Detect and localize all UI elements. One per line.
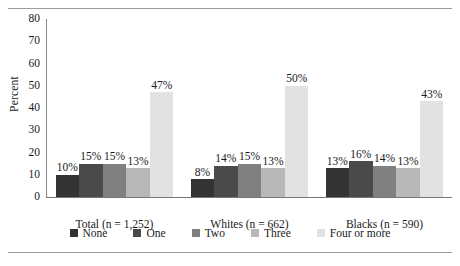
top-divider-rule (8, 8, 452, 9)
bar-value-label: 13% (263, 156, 284, 168)
bar-value-label: 47% (151, 80, 172, 92)
legend-swatch-icon (192, 229, 200, 237)
bar-slot: 50% (285, 19, 309, 197)
bar-slot: 14% (373, 19, 397, 197)
bar-group-bars: 13%16%14%13%43% (326, 19, 444, 197)
chart-legend: NoneOneTwoThreeFour or more (0, 227, 460, 239)
y-axis-tick-label: 40 (16, 102, 40, 114)
bar[interactable]: 15% (79, 164, 103, 197)
bar-value-label: 43% (421, 89, 442, 101)
legend-swatch-icon (70, 229, 78, 237)
legend-item[interactable]: One (133, 227, 165, 239)
bar-group: 13%16%14%13%43% (317, 19, 452, 197)
legend-swatch-icon (133, 229, 141, 237)
y-axis-tick-label: 80 (16, 13, 40, 25)
bar-value-label: 13% (398, 156, 419, 168)
y-axis-tick-label: 30 (16, 124, 40, 136)
bar-value-label: 8% (195, 167, 210, 179)
bar-value-label: 14% (215, 153, 236, 165)
bar-group: 8%14%15%13%50% (182, 19, 317, 197)
legend-item-label: Three (264, 227, 291, 239)
bar-value-label: 14% (374, 153, 395, 165)
bar-slot: 10% (56, 19, 80, 197)
legend-swatch-icon (317, 229, 325, 237)
bar-slot: 47% (150, 19, 174, 197)
legend-item[interactable]: Four or more (317, 227, 391, 239)
bar-group-bars: 8%14%15%13%50% (191, 19, 309, 197)
bar-slot: 15% (103, 19, 127, 197)
bar-value-label: 13% (128, 156, 149, 168)
bar[interactable]: 47% (150, 92, 174, 197)
bar[interactable]: 8% (191, 179, 215, 197)
legend-item[interactable]: Two (192, 227, 225, 239)
y-axis-tick-label: 20 (16, 147, 40, 159)
bar-slot: 8% (191, 19, 215, 197)
legend-item[interactable]: Three (251, 227, 291, 239)
bar-slot: 15% (238, 19, 262, 197)
bar[interactable]: 50% (285, 86, 309, 197)
bar-value-label: 13% (327, 156, 348, 168)
bar[interactable]: 14% (373, 166, 397, 197)
bar[interactable]: 14% (214, 166, 238, 197)
bar[interactable]: 15% (238, 164, 262, 197)
bar[interactable]: 16% (349, 161, 373, 197)
legend-item-label: One (146, 227, 165, 239)
plot-area: Percent 80706050403020100 10%15%15%13%47… (0, 14, 460, 204)
y-axis-tick-label: 60 (16, 58, 40, 70)
legend-item[interactable]: None (70, 227, 108, 239)
y-axis-tick-label: 10 (16, 169, 40, 181)
bar-slot: 43% (420, 19, 444, 197)
bar-slot: 16% (349, 19, 373, 197)
y-axis-tick-label: 50 (16, 80, 40, 92)
bar-value-label: 15% (239, 151, 260, 163)
bar[interactable]: 43% (420, 101, 444, 197)
bar-slot: 14% (214, 19, 238, 197)
legend-item-label: None (83, 227, 108, 239)
y-axis-tick-label: 0 (16, 191, 40, 203)
chart-figure: Percent 80706050403020100 10%15%15%13%47… (0, 0, 460, 266)
bar-value-label: 50% (286, 73, 307, 85)
bar-value-label: 10% (57, 162, 78, 174)
bar-group-bars: 10%15%15%13%47% (56, 19, 174, 197)
legend-item-label: Four or more (330, 227, 391, 239)
bar[interactable]: 15% (103, 164, 127, 197)
bar-value-label: 15% (80, 151, 101, 163)
bar-value-label: 16% (350, 149, 371, 161)
bar-slot: 13% (261, 19, 285, 197)
bar[interactable]: 10% (56, 175, 80, 197)
bar-slot: 13% (326, 19, 350, 197)
bar[interactable]: 13% (261, 168, 285, 197)
y-axis-tick-label: 70 (16, 35, 40, 47)
bar-group: 10%15%15%13%47% (47, 19, 182, 197)
legend-item-label: Two (205, 227, 225, 239)
bar-groups: 10%15%15%13%47%8%14%15%13%50%13%16%14%13… (47, 19, 452, 197)
x-axis-line (46, 197, 452, 198)
bar-value-label: 15% (104, 151, 125, 163)
bar-slot: 15% (79, 19, 103, 197)
bar-slot: 13% (126, 19, 150, 197)
bar[interactable]: 13% (126, 168, 150, 197)
bar-slot: 13% (396, 19, 420, 197)
legend-swatch-icon (251, 229, 259, 237)
bar[interactable]: 13% (396, 168, 420, 197)
bar[interactable]: 13% (326, 168, 350, 197)
bottom-divider-rule (8, 252, 452, 253)
